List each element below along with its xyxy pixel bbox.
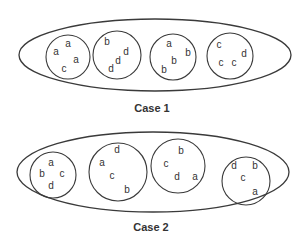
element-letter: c: [62, 63, 67, 74]
case-1: a a a c b d d d a b b b c d c c Case 1: [19, 19, 291, 114]
element-letter: d: [48, 180, 54, 191]
element-letter: a: [166, 38, 172, 49]
case-2-group-4: d b c a: [222, 157, 270, 205]
element-letter: d: [108, 63, 114, 74]
group-circle: [222, 157, 270, 205]
element-letter: b: [171, 55, 177, 66]
element-letter: d: [174, 171, 180, 182]
case-1-group-4: c d c c: [207, 33, 253, 79]
case-2-group-2: d a c b: [89, 143, 147, 201]
element-letter: c: [241, 172, 246, 183]
element-letter: b: [185, 47, 191, 58]
element-letter: b: [39, 168, 45, 179]
element-letter: d: [115, 55, 121, 66]
element-letter: c: [232, 57, 237, 68]
element-letter: c: [164, 158, 169, 169]
case-2-caption: Case 2: [133, 221, 168, 233]
element-letter: b: [104, 36, 110, 47]
element-letter: c: [219, 57, 224, 68]
case-1-group-2: b d d d: [93, 31, 141, 79]
element-letter: d: [231, 160, 237, 171]
element-letter: d: [114, 144, 120, 155]
element-letter: b: [161, 64, 167, 75]
element-letter: a: [192, 171, 198, 182]
case-2-group-3: b c d a: [151, 139, 205, 193]
case-1-group-1: a a a c: [46, 35, 90, 79]
element-letter: c: [110, 170, 115, 181]
case-1-outer-ellipse: [19, 19, 291, 91]
case-2-group-1: a b c d: [30, 152, 76, 198]
element-letter: a: [99, 157, 105, 168]
element-letter: a: [53, 46, 59, 57]
case-1-group-3: a b b b: [150, 34, 196, 80]
element-letter: a: [73, 54, 79, 65]
case-2: a b c d d a c b b c d a d b c a Case 2: [17, 132, 289, 233]
element-letter: c: [60, 168, 65, 179]
element-letter: d: [123, 46, 129, 57]
element-letter: b: [252, 160, 258, 171]
case-1-caption: Case 1: [134, 102, 169, 114]
element-letter: a: [252, 186, 258, 197]
element-letter: a: [48, 157, 54, 168]
element-letter: d: [241, 48, 247, 59]
case-2-outer-ellipse: [17, 132, 289, 212]
element-letter: b: [124, 184, 130, 195]
element-letter: a: [65, 38, 71, 49]
element-letter: c: [217, 39, 222, 50]
element-letter: b: [178, 145, 184, 156]
diagram: a a a c b d d d a b b b c d c c Case 1: [0, 0, 305, 239]
